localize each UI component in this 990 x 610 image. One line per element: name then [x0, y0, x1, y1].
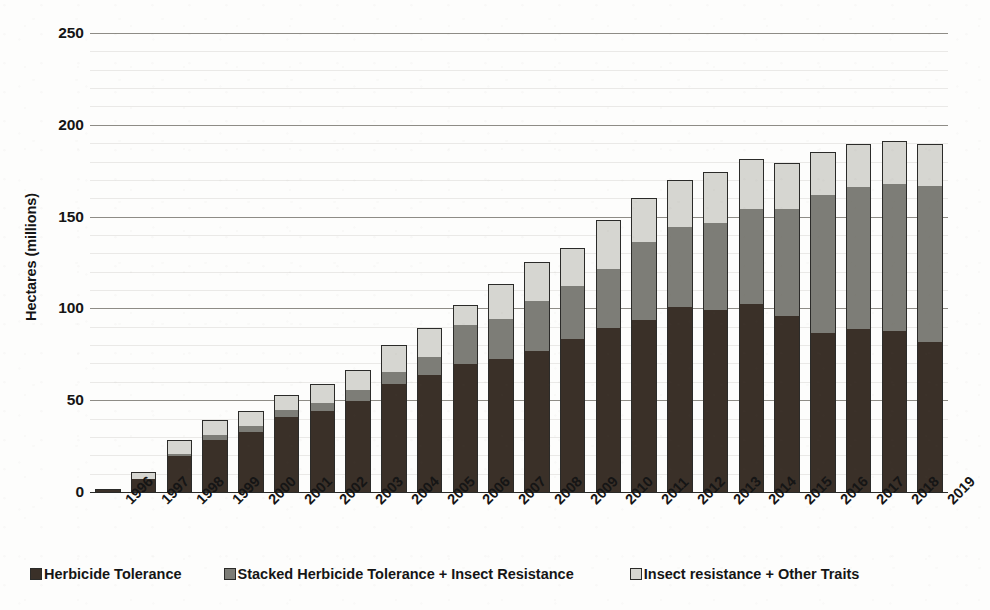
- x-axis-tick-label: 2014: [765, 496, 776, 507]
- bar-group[interactable]: [631, 198, 657, 492]
- x-axis-tick-label: 2005: [444, 496, 455, 507]
- bar-group[interactable]: [703, 172, 729, 492]
- bar-segment-stacked-ht-ir: [667, 227, 693, 307]
- bar-segment-insect-resistance-other: [810, 152, 836, 195]
- bar-group[interactable]: [667, 180, 693, 492]
- x-axis-tick-label: 2004: [408, 496, 419, 507]
- chart-legend: Herbicide Tolerance Stacked Herbicide To…: [30, 560, 960, 588]
- bar-segment-herbicide-tolerance: [631, 320, 657, 492]
- bar-segment-stacked-ht-ir: [703, 223, 729, 309]
- legend-label: Insect resistance + Other Traits: [644, 566, 860, 582]
- x-axis-tick-label: 2019: [944, 496, 955, 507]
- bar-segment-insect-resistance-other: [846, 144, 872, 187]
- bar-segment-insect-resistance-other: [381, 345, 407, 372]
- bar-segment-herbicide-tolerance: [917, 342, 943, 492]
- bar-segment-herbicide-tolerance: [560, 339, 586, 492]
- legend-swatch-icon: [30, 568, 42, 580]
- bar-segment-herbicide-tolerance: [524, 351, 550, 492]
- bar-segment-stacked-ht-ir: [381, 372, 407, 384]
- bar-group[interactable]: [453, 305, 479, 492]
- bar-segment-insect-resistance-other: [202, 420, 228, 435]
- bar-segment-stacked-ht-ir: [739, 209, 765, 303]
- x-axis-tick-label: 2012: [694, 496, 705, 507]
- bar-group[interactable]: [810, 152, 836, 492]
- bar-segment-insect-resistance-other: [488, 284, 514, 319]
- x-axis-tick-label: 2002: [336, 496, 347, 507]
- bar-segment-stacked-ht-ir: [596, 269, 622, 328]
- legend-swatch-icon: [630, 568, 642, 580]
- x-axis-tick-label: 2009: [587, 496, 598, 507]
- legend-swatch-icon: [224, 568, 236, 580]
- bar-group[interactable]: [882, 141, 908, 492]
- y-axis-tick-label: 50: [38, 391, 84, 409]
- legend-label: Herbicide Tolerance: [44, 566, 182, 582]
- bar-group[interactable]: [488, 284, 514, 492]
- bar-segment-insect-resistance-other: [631, 198, 657, 242]
- bar-segment-herbicide-tolerance: [846, 329, 872, 492]
- x-axis-tick-label: 2010: [622, 496, 633, 507]
- bar-segment-stacked-ht-ir: [560, 286, 586, 339]
- x-axis-tick-label: 2016: [837, 496, 848, 507]
- bar-group[interactable]: [917, 144, 943, 492]
- bar-segment-stacked-ht-ir: [917, 186, 943, 342]
- bar-segment-insect-resistance-other: [524, 262, 550, 301]
- bar-group[interactable]: [596, 220, 622, 492]
- x-axis-tick-label: 2011: [658, 496, 669, 507]
- bar-segment-insect-resistance-other: [560, 248, 586, 286]
- bar-segment-herbicide-tolerance: [667, 307, 693, 492]
- x-axis-tick-label: 1999: [229, 496, 240, 507]
- bar-segment-stacked-ht-ir: [453, 325, 479, 364]
- bar-segment-stacked-ht-ir: [774, 209, 800, 316]
- plot-area: [90, 33, 948, 492]
- bar-segment-herbicide-tolerance: [882, 331, 908, 492]
- x-axis-tick-label: 2015: [801, 496, 812, 507]
- bar-segment-stacked-ht-ir: [345, 390, 371, 401]
- bar-segment-insect-resistance-other: [417, 328, 443, 356]
- bar-segment-insect-resistance-other: [238, 411, 264, 426]
- x-axis-tick-label: 2018: [908, 496, 919, 507]
- bar-segment-insect-resistance-other: [345, 370, 371, 390]
- x-axis-tick-label: 2013: [730, 496, 741, 507]
- x-axis-tick-label: 2006: [479, 496, 490, 507]
- bar-segment-stacked-ht-ir: [882, 184, 908, 332]
- bars-layer: [90, 33, 948, 492]
- bar-segment-insect-resistance-other: [667, 180, 693, 228]
- x-axis-tick-label: 2007: [515, 496, 526, 507]
- legend-item-insect-resistance-other: Insect resistance + Other Traits: [630, 566, 860, 582]
- bar-group[interactable]: [381, 345, 407, 492]
- bar-segment-insect-resistance-other: [453, 305, 479, 326]
- bar-segment-insect-resistance-other: [167, 440, 193, 454]
- bar-segment-herbicide-tolerance: [739, 304, 765, 492]
- bar-segment-herbicide-tolerance: [596, 328, 622, 492]
- y-axis-tick-label: 250: [38, 24, 84, 42]
- x-axis-tick-label: 1996: [122, 496, 133, 507]
- bar-segment-herbicide-tolerance: [810, 333, 836, 492]
- x-axis-tick-label: 1997: [158, 496, 169, 507]
- legend-item-stacked-ht-ir: Stacked Herbicide Tolerance + Insect Res…: [224, 566, 574, 582]
- bar-group[interactable]: [560, 248, 586, 492]
- x-axis-tick-label: 2008: [551, 496, 562, 507]
- y-axis-tick-label: 150: [38, 208, 84, 226]
- bar-segment-stacked-ht-ir: [417, 357, 443, 376]
- bar-group[interactable]: [774, 163, 800, 492]
- bar-segment-insect-resistance-other: [774, 163, 800, 208]
- bar-group[interactable]: [846, 144, 872, 492]
- y-axis-tick-label: 0: [38, 483, 84, 501]
- y-axis-tick-labels: 250200150100500: [10, 0, 84, 610]
- bar-segment-insect-resistance-other: [596, 220, 622, 268]
- bar-segment-stacked-ht-ir: [810, 195, 836, 333]
- bar-group[interactable]: [524, 262, 550, 492]
- bar-segment-insect-resistance-other: [310, 384, 336, 403]
- y-axis-tick-label: 100: [38, 299, 84, 317]
- x-axis-tick-label: 2017: [873, 496, 884, 507]
- bar-segment-insect-resistance-other: [703, 172, 729, 223]
- bar-group[interactable]: [417, 328, 443, 492]
- bar-segment-stacked-ht-ir: [488, 319, 514, 359]
- bar-segment-stacked-ht-ir: [846, 187, 872, 330]
- x-axis-tick-label: 1998: [193, 496, 204, 507]
- stacked-bar-chart: Hectares (millions) 250200150100500 1996…: [0, 0, 990, 610]
- bar-group[interactable]: [739, 159, 765, 492]
- bar-segment-insect-resistance-other: [739, 159, 765, 209]
- bar-segment-insect-resistance-other: [917, 144, 943, 186]
- bar-segment-insect-resistance-other: [274, 395, 300, 409]
